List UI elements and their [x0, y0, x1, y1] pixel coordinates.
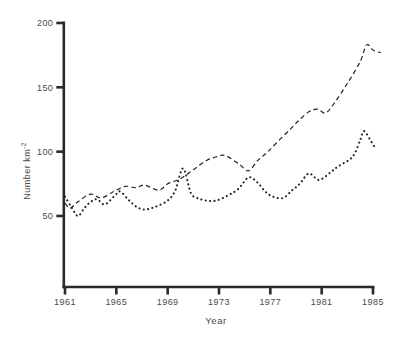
x-tick-label: 1977	[259, 297, 281, 307]
y-tick-label: 150	[37, 83, 53, 93]
x-tick-label: 1961	[54, 297, 76, 307]
x-tick-label: 1981	[311, 297, 333, 307]
y-tick-label: 100	[37, 147, 53, 157]
y-tick-label: 50	[42, 211, 53, 221]
y-tick-label: 200	[37, 18, 53, 28]
chart-canvas: 501001502001961196519691973197719811985	[0, 0, 402, 344]
line-chart-figure: 501001502001961196519691973197719811985 …	[0, 0, 402, 344]
y-axis-label-text: Number km	[22, 149, 32, 200]
series-lower-dotted-line	[65, 131, 374, 216]
x-tick-label: 1985	[362, 297, 384, 307]
x-tick-label: 1969	[157, 297, 179, 307]
x-axis-label: Year	[205, 315, 227, 326]
y-axis-label-exponent: -2	[20, 142, 27, 148]
y-axis-label: Number km-2	[20, 142, 32, 199]
x-tick-label: 1973	[208, 297, 230, 307]
x-tick-label: 1965	[105, 297, 127, 307]
series-upper-dashed-line	[65, 44, 381, 208]
